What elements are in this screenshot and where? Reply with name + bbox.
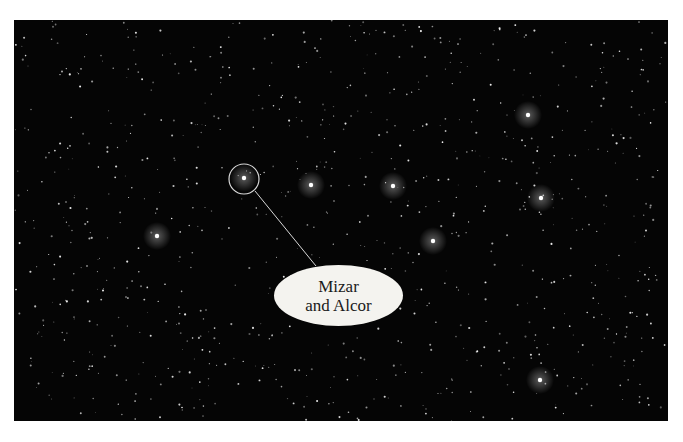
star-field-photo	[14, 20, 668, 421]
callout-line	[255, 191, 316, 266]
mizar-alcor-label: Mizar and Alcor	[274, 265, 403, 326]
label-line2: and Alcor	[305, 296, 372, 315]
label-line1: Mizar	[318, 277, 359, 296]
star-field	[14, 20, 668, 421]
bright-stars	[143, 101, 555, 394]
faint-stars	[15, 20, 667, 421]
